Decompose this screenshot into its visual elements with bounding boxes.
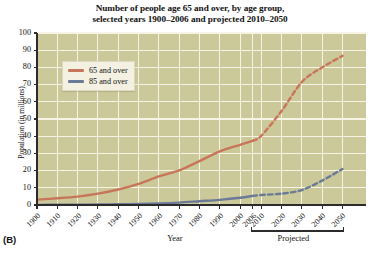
legend-label-85-and-over: 85 and over [89,77,128,86]
legend-swatch-85-and-over [68,80,84,83]
legend-item-85-and-over: 85 and over [68,76,128,87]
x-axis-title: Year [167,234,182,243]
y-tick-label-90: 90 [5,46,31,54]
y-tick-label-100: 100 [5,29,31,37]
panel-label: (B) [3,234,16,245]
projected-label: Projected [278,234,310,243]
figure-panel: Number of people age 65 and over, by age… [0,0,376,253]
y-tick-label-0: 0 [5,201,31,209]
legend-label-65-and-over: 65 and over [89,66,128,75]
chart-legend: 65 and over 85 and over [62,61,135,91]
legend-swatch-65-and-over [68,69,84,72]
y-axis-title: Population (in millions) [17,58,26,188]
legend-item-65-and-over: 65 and over [68,65,128,76]
